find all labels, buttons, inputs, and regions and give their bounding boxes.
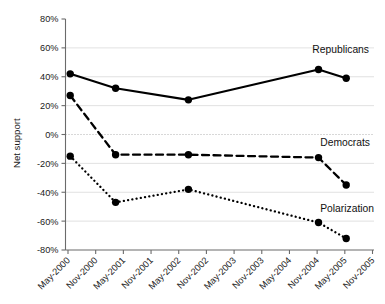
y-axis-title: Net support xyxy=(11,118,22,168)
data-point-polarization xyxy=(185,186,192,193)
data-point-polarization xyxy=(343,235,350,242)
data-point-republicans xyxy=(112,85,119,92)
gridlines-group xyxy=(66,48,375,221)
y-tick-label: 20% xyxy=(40,101,58,111)
series-line-republicans xyxy=(70,70,346,100)
data-point-republicans xyxy=(185,96,192,103)
y-tick-label: -40% xyxy=(37,188,58,198)
y-tick-label: 40% xyxy=(40,72,58,82)
y-axis-ticks-group: 80%60%40%20%0%-20%-40%-60%-80% xyxy=(37,14,65,255)
data-point-democrats xyxy=(112,151,119,158)
chart-container: 80%60%40%20%0%-20%-40%-60%-80% May-2000N… xyxy=(0,0,385,304)
y-tick-label: 60% xyxy=(40,43,58,53)
data-point-republicans xyxy=(315,66,322,73)
series-label-republicans: Republicans xyxy=(312,44,369,55)
y-tick-label: -80% xyxy=(37,245,58,255)
x-axis-ticks-group: May-2000Nov-2000May-2001Nov-2001May-2002… xyxy=(36,250,376,291)
y-tick-label: -20% xyxy=(37,159,58,169)
data-point-polarization xyxy=(112,199,119,206)
data-point-republicans xyxy=(343,74,350,81)
data-point-democrats xyxy=(185,151,192,158)
data-point-democrats xyxy=(343,181,350,188)
y-tick-label: -60% xyxy=(37,217,58,227)
series-label-democrats: Democrats xyxy=(320,137,370,148)
y-tick-label: 80% xyxy=(40,14,58,24)
series-line-democrats xyxy=(70,96,346,186)
data-point-democrats xyxy=(67,92,74,99)
data-series-layer xyxy=(67,66,350,242)
data-point-polarization xyxy=(67,152,74,159)
data-point-polarization xyxy=(315,219,322,226)
y-tick-label: 0% xyxy=(45,130,58,140)
series-line-polarization xyxy=(70,156,346,238)
data-point-republicans xyxy=(67,70,74,77)
net-support-line-chart: 80%60%40%20%0%-20%-40%-60%-80% May-2000N… xyxy=(0,0,385,304)
series-label-polarization: Polarization xyxy=(320,203,374,214)
data-point-democrats xyxy=(315,154,322,161)
